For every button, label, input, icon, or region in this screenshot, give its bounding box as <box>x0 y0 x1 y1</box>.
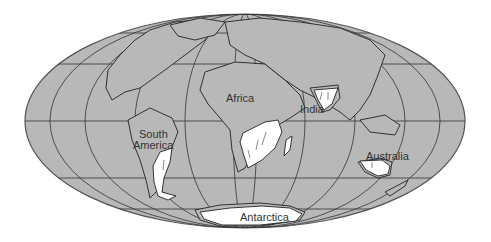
label-africa: Africa <box>226 92 254 104</box>
label-south-america-line2: America <box>133 139 173 151</box>
label-australia: Australia <box>366 150 409 162</box>
label-india: India <box>300 103 324 115</box>
label-antarctica: Antarctica <box>240 211 289 223</box>
world-map <box>0 0 491 242</box>
